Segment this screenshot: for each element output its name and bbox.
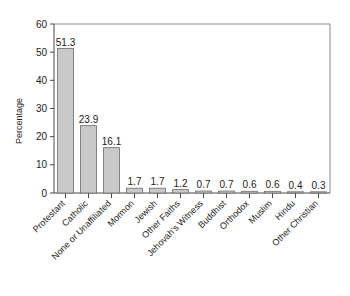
bar [58, 49, 74, 194]
bar-value-label: 0.4 [289, 180, 303, 191]
y-axis-title: Percentage [14, 98, 24, 144]
bar [265, 191, 281, 193]
y-tick-label: 60 [36, 19, 48, 30]
bar-value-label: 0.7 [197, 179, 211, 190]
bar [81, 126, 97, 193]
y-tick-label: 10 [36, 159, 48, 170]
bar-value-label: 16.1 [102, 136, 122, 147]
bar-value-label: 1.2 [174, 178, 188, 189]
bar [127, 188, 143, 193]
bar-value-label: 0.7 [220, 179, 234, 190]
bar [196, 191, 212, 193]
bar [288, 192, 304, 193]
bar [219, 191, 235, 193]
bar [173, 190, 189, 193]
bar [150, 188, 166, 193]
y-tick-label: 50 [36, 47, 48, 58]
bar [311, 192, 327, 193]
bar-value-label: 0.3 [312, 180, 326, 191]
chart-canvas: 0102030405060 51.323.916.11.71.71.20.70.… [0, 0, 350, 296]
y-tick-label: 0 [41, 188, 47, 199]
bar [104, 148, 120, 193]
bar-value-label: 1.7 [128, 176, 142, 187]
y-tick-label: 30 [36, 103, 48, 114]
bar-value-label: 51.3 [56, 37, 76, 48]
bar [242, 191, 258, 193]
bar-value-label: 23.9 [79, 114, 99, 125]
y-tick-label: 20 [36, 131, 48, 142]
bar-chart: 0102030405060 51.323.916.11.71.71.20.70.… [0, 0, 350, 296]
bar-value-label: 0.6 [243, 179, 257, 190]
bar-value-label: 1.7 [151, 176, 165, 187]
bar-value-label: 0.6 [266, 179, 280, 190]
y-tick-label: 40 [36, 75, 48, 86]
